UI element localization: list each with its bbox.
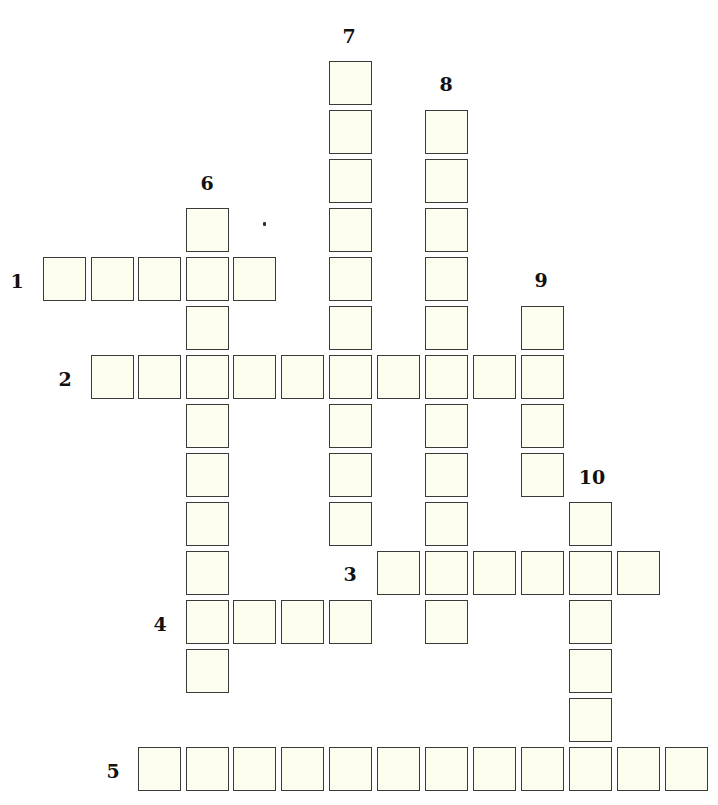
crossword-cell[interactable] bbox=[521, 404, 564, 448]
crossword-cell[interactable] bbox=[138, 257, 181, 301]
print-speck bbox=[263, 222, 266, 226]
crossword-cell[interactable] bbox=[233, 747, 276, 791]
crossword-cell[interactable] bbox=[569, 649, 612, 693]
crossword-cell[interactable] bbox=[329, 159, 372, 203]
crossword-cell[interactable] bbox=[186, 453, 229, 497]
crossword-cell[interactable] bbox=[425, 208, 468, 252]
crossword-cell[interactable] bbox=[425, 159, 468, 203]
crossword-cell[interactable] bbox=[281, 600, 324, 644]
crossword-cell[interactable] bbox=[473, 551, 516, 595]
crossword-cell[interactable] bbox=[425, 747, 468, 791]
crossword-cell[interactable] bbox=[521, 355, 564, 399]
crossword-cell[interactable] bbox=[233, 355, 276, 399]
clue-number-7-down: 7 bbox=[342, 27, 355, 46]
clue-number-2-across: 2 bbox=[58, 370, 71, 389]
crossword-cell[interactable] bbox=[138, 747, 181, 791]
crossword-cell[interactable] bbox=[425, 355, 468, 399]
crossword-cell[interactable] bbox=[569, 600, 612, 644]
crossword-cell[interactable] bbox=[521, 306, 564, 350]
crossword-cell[interactable] bbox=[521, 551, 564, 595]
crossword-cell[interactable] bbox=[569, 747, 612, 791]
crossword-cell[interactable] bbox=[329, 747, 372, 791]
clue-number-3-across: 3 bbox=[343, 565, 356, 584]
crossword-cell[interactable] bbox=[329, 600, 372, 644]
clue-number-10-down: 10 bbox=[579, 468, 605, 487]
clue-number-4-across: 4 bbox=[153, 615, 166, 634]
crossword-cell[interactable] bbox=[425, 404, 468, 448]
clue-number-9-down: 9 bbox=[534, 271, 547, 290]
crossword-cell[interactable] bbox=[91, 257, 134, 301]
crossword-cell[interactable] bbox=[138, 355, 181, 399]
crossword-cell[interactable] bbox=[329, 61, 372, 105]
clue-number-1-across: 1 bbox=[10, 272, 23, 291]
crossword-cell[interactable] bbox=[329, 355, 372, 399]
crossword-cell[interactable] bbox=[329, 110, 372, 154]
crossword-cell[interactable] bbox=[329, 404, 372, 448]
crossword-cell[interactable] bbox=[329, 257, 372, 301]
crossword-cell[interactable] bbox=[186, 502, 229, 546]
crossword-cell[interactable] bbox=[569, 551, 612, 595]
crossword-cell[interactable] bbox=[329, 208, 372, 252]
crossword-cell[interactable] bbox=[329, 453, 372, 497]
crossword-cell[interactable] bbox=[425, 110, 468, 154]
crossword-cell[interactable] bbox=[569, 698, 612, 742]
crossword-cell[interactable] bbox=[281, 747, 324, 791]
crossword-cell[interactable] bbox=[186, 257, 229, 301]
crossword-cell[interactable] bbox=[329, 306, 372, 350]
crossword-cell[interactable] bbox=[521, 747, 564, 791]
crossword-cell[interactable] bbox=[186, 600, 229, 644]
crossword-cell[interactable] bbox=[569, 502, 612, 546]
crossword-cell[interactable] bbox=[377, 355, 420, 399]
crossword-cell[interactable] bbox=[186, 404, 229, 448]
crossword-cell[interactable] bbox=[233, 600, 276, 644]
crossword-cell[interactable] bbox=[425, 453, 468, 497]
crossword-cell[interactable] bbox=[425, 502, 468, 546]
crossword-cell[interactable] bbox=[617, 551, 660, 595]
crossword-cell[interactable] bbox=[377, 551, 420, 595]
crossword-cell[interactable] bbox=[665, 747, 708, 791]
crossword-cell[interactable] bbox=[329, 502, 372, 546]
crossword-cell[interactable] bbox=[186, 649, 229, 693]
clue-number-5-across: 5 bbox=[106, 762, 119, 781]
crossword-cell[interactable] bbox=[521, 453, 564, 497]
crossword-cell[interactable] bbox=[473, 747, 516, 791]
crossword-cell[interactable] bbox=[377, 747, 420, 791]
crossword-cell[interactable] bbox=[233, 257, 276, 301]
clue-number-8-down: 8 bbox=[439, 75, 452, 94]
crossword-board: 12345678910 bbox=[0, 0, 718, 805]
clue-number-6-down: 6 bbox=[200, 174, 213, 193]
crossword-cell[interactable] bbox=[91, 355, 134, 399]
crossword-cell[interactable] bbox=[425, 306, 468, 350]
crossword-cell[interactable] bbox=[186, 306, 229, 350]
crossword-cell[interactable] bbox=[425, 257, 468, 301]
crossword-cell[interactable] bbox=[473, 355, 516, 399]
crossword-cell[interactable] bbox=[186, 208, 229, 252]
crossword-cell[interactable] bbox=[281, 355, 324, 399]
crossword-cell[interactable] bbox=[43, 257, 86, 301]
crossword-cell[interactable] bbox=[186, 551, 229, 595]
crossword-cell[interactable] bbox=[186, 355, 229, 399]
crossword-cell[interactable] bbox=[425, 600, 468, 644]
crossword-cell[interactable] bbox=[425, 551, 468, 595]
crossword-cell[interactable] bbox=[617, 747, 660, 791]
crossword-cell[interactable] bbox=[186, 747, 229, 791]
